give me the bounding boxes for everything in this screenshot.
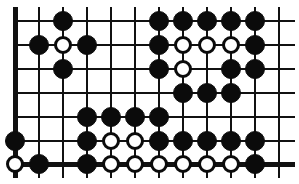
white-stone[interactable] xyxy=(150,155,168,173)
black-stone[interactable] xyxy=(149,131,169,151)
black-stone[interactable] xyxy=(5,131,25,151)
black-stone[interactable] xyxy=(245,35,265,55)
white-stone[interactable] xyxy=(102,155,120,173)
grid-line-col-6 xyxy=(134,7,136,178)
white-stone[interactable] xyxy=(54,36,72,54)
grid-line-col-5 xyxy=(110,7,112,178)
white-stone[interactable] xyxy=(222,36,240,54)
grid-line-col-7 xyxy=(158,7,160,178)
black-stone[interactable] xyxy=(125,107,145,127)
grid-line-col-3 xyxy=(62,7,64,178)
white-stone[interactable] xyxy=(198,36,216,54)
white-stone[interactable] xyxy=(102,132,120,150)
white-stone[interactable] xyxy=(174,36,192,54)
black-stone[interactable] xyxy=(101,107,121,127)
go-board-diagram xyxy=(0,0,299,184)
black-stone[interactable] xyxy=(197,83,217,103)
black-stone[interactable] xyxy=(53,59,73,79)
grid-line-col-12 xyxy=(278,7,280,178)
white-stone[interactable] xyxy=(126,132,144,150)
black-stone[interactable] xyxy=(77,154,97,174)
white-stone[interactable] xyxy=(174,155,192,173)
grid-line-col-11 xyxy=(254,7,256,178)
black-stone[interactable] xyxy=(245,154,265,174)
black-stone[interactable] xyxy=(77,131,97,151)
black-stone[interactable] xyxy=(221,83,241,103)
white-stone[interactable] xyxy=(174,60,192,78)
black-stone[interactable] xyxy=(77,107,97,127)
black-stone[interactable] xyxy=(149,107,169,127)
black-stone[interactable] xyxy=(173,131,193,151)
black-stone[interactable] xyxy=(29,154,49,174)
black-stone[interactable] xyxy=(221,131,241,151)
grid-line-col-4 xyxy=(86,7,88,178)
white-stone[interactable] xyxy=(198,155,216,173)
white-stone[interactable] xyxy=(222,155,240,173)
black-stone[interactable] xyxy=(29,35,49,55)
black-stone[interactable] xyxy=(221,59,241,79)
go-board-surface[interactable] xyxy=(0,0,299,184)
white-stone[interactable] xyxy=(126,155,144,173)
black-stone[interactable] xyxy=(173,11,193,31)
black-stone[interactable] xyxy=(149,35,169,55)
black-stone[interactable] xyxy=(221,11,241,31)
grid-line-col-2 xyxy=(38,7,40,178)
black-stone[interactable] xyxy=(197,11,217,31)
black-stone[interactable] xyxy=(149,59,169,79)
black-stone[interactable] xyxy=(53,11,73,31)
black-stone[interactable] xyxy=(245,131,265,151)
grid-line-row-4 xyxy=(13,92,295,94)
black-stone[interactable] xyxy=(245,59,265,79)
white-stone[interactable] xyxy=(6,155,24,173)
black-stone[interactable] xyxy=(173,83,193,103)
black-stone[interactable] xyxy=(77,35,97,55)
black-stone[interactable] xyxy=(245,11,265,31)
black-stone[interactable] xyxy=(149,11,169,31)
black-stone[interactable] xyxy=(197,131,217,151)
grid-line-col-1 xyxy=(13,7,18,178)
